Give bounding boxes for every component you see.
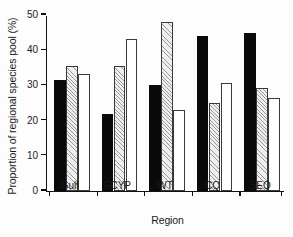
x-category-label-gulf: Gulf <box>46 180 94 191</box>
y-axis-tick: 30 <box>41 84 46 85</box>
bar-seq-series-2 <box>256 88 268 191</box>
y-axis-tick-label: 30 <box>27 79 38 90</box>
bar-seq-series-1 <box>244 33 256 191</box>
bar-chart-figure: Proportion of regional species pool (%) … <box>0 0 293 237</box>
bar-gulf-series-2 <box>66 66 78 190</box>
bar-ecyp-series-2 <box>114 66 126 190</box>
bar-cq-series-1 <box>197 36 209 191</box>
bar-wt-series-3 <box>173 110 185 191</box>
y-axis-tick-label: 50 <box>27 9 38 20</box>
y-axis-line <box>46 16 47 192</box>
bar-cq-series-2 <box>209 103 221 191</box>
x-category-label-cq: CQ <box>189 180 237 191</box>
y-axis-tick: 50 <box>41 13 46 14</box>
x-category-label-ecyp: ECYP <box>94 180 142 191</box>
x-axis-tick <box>144 192 145 196</box>
y-axis-tick: 10 <box>41 154 46 155</box>
x-axis-title: Region <box>45 214 290 226</box>
x-axis-tick <box>192 192 193 196</box>
y-axis-tick-label: 10 <box>27 149 38 160</box>
x-category-label-seq: SEQ <box>236 180 284 191</box>
bar-gulf-series-3 <box>78 74 90 190</box>
x-axis-tick <box>97 192 98 196</box>
plot-area: 01020304050 <box>46 16 284 192</box>
y-axis-tick-label: 0 <box>32 185 38 196</box>
y-axis-title: Proportion of regional species pool (%) <box>4 6 20 206</box>
y-axis-tick-label: 40 <box>27 44 38 55</box>
bar-wt-series-2 <box>161 22 173 191</box>
bar-seq-series-3 <box>268 98 280 191</box>
bar-ecyp-series-3 <box>126 39 138 190</box>
x-axis-tick <box>239 192 240 196</box>
x-axis-tick <box>49 192 50 196</box>
y-axis-tick-label: 20 <box>27 114 38 125</box>
y-axis-tick: 40 <box>41 49 46 50</box>
y-axis-tick: 20 <box>41 119 46 120</box>
bar-gulf-series-1 <box>54 80 66 191</box>
x-axis-tick <box>281 192 282 196</box>
bar-wt-series-1 <box>149 85 161 191</box>
bar-cq-series-3 <box>221 83 233 190</box>
x-category-label-wt: WT <box>141 180 189 191</box>
